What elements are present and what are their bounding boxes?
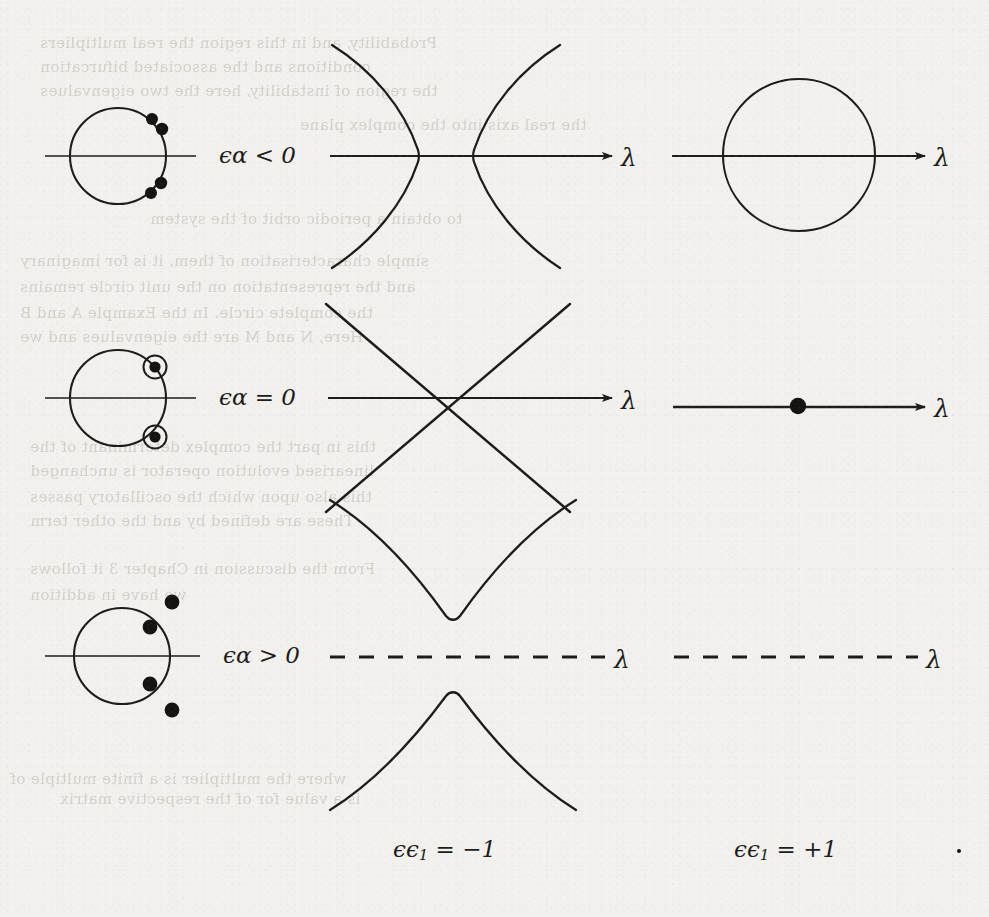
row-1-right-circle-panel bbox=[672, 79, 925, 231]
row-3-left-unit-circle-panel bbox=[45, 595, 200, 718]
row-2-middle-crossing-lines-panel bbox=[326, 304, 612, 512]
row-3-multiplier-dot-outside-upper bbox=[165, 595, 180, 610]
caption-left-sub: 1 bbox=[419, 846, 429, 864]
row-2-multiplier-dot-1 bbox=[149, 361, 160, 372]
row-3-hyperbola-lower-branch bbox=[330, 692, 576, 810]
row-2-right-eigenvalue-dot bbox=[790, 398, 806, 414]
row-1-right-lambda-label: λ bbox=[934, 143, 950, 172]
row-2-multiplier-dot-2 bbox=[149, 431, 160, 442]
row-3-condition-label: ϵα > 0 bbox=[223, 642, 300, 668]
row-1-left-unit-circle-panel bbox=[45, 108, 196, 204]
caption-left-column: ϵϵ1 = −1 bbox=[393, 836, 496, 864]
row-3-right-lambda-label: λ bbox=[926, 645, 942, 674]
figure-lineart bbox=[0, 0, 989, 917]
caption-right-rest: = +1 bbox=[769, 836, 837, 862]
row-2-right-axis-with-dot-panel bbox=[673, 398, 925, 414]
row-3-multiplier-dot-inside-upper bbox=[143, 620, 158, 635]
row-2-middle-lambda-label: λ bbox=[621, 386, 637, 415]
row-1-multiplier-dot-2 bbox=[156, 123, 168, 135]
row-3-multiplier-dot-outside-lower bbox=[165, 703, 180, 718]
row-1-multiplier-dot-3 bbox=[155, 177, 167, 189]
row-1-condition-label: ϵα < 0 bbox=[219, 142, 296, 168]
row-2-left-unit-circle-panel bbox=[45, 350, 196, 449]
ink-speck bbox=[957, 849, 961, 853]
caption-right-head: ϵϵ bbox=[734, 836, 760, 862]
row-1-multiplier-dot-4 bbox=[145, 187, 157, 199]
caption-left-head: ϵϵ bbox=[393, 836, 419, 862]
row-1-right-circle bbox=[723, 79, 875, 231]
caption-right-column: ϵϵ1 = +1 bbox=[734, 836, 837, 864]
row-1-multiplier-dot-1 bbox=[146, 113, 158, 125]
row-1-middle-lambda-label: λ bbox=[621, 143, 637, 172]
caption-left-rest: = −1 bbox=[428, 836, 496, 862]
row-1-middle-hyperbola-panel bbox=[330, 45, 612, 268]
row-2-right-lambda-label: λ bbox=[934, 394, 950, 423]
row-3-middle-hyperbola-panel bbox=[330, 500, 605, 810]
row-2-condition-label: ϵα = 0 bbox=[219, 384, 296, 410]
figure-root: Probability, and in this region the real… bbox=[0, 0, 989, 917]
row-3-middle-lambda-label: λ bbox=[614, 645, 630, 674]
caption-right-sub: 1 bbox=[760, 846, 770, 864]
row-3-multiplier-dot-inside-lower bbox=[143, 677, 158, 692]
row-2-multiplier-ringed-1 bbox=[144, 356, 167, 379]
row-3-hyperbola-upper-branch bbox=[330, 500, 576, 620]
